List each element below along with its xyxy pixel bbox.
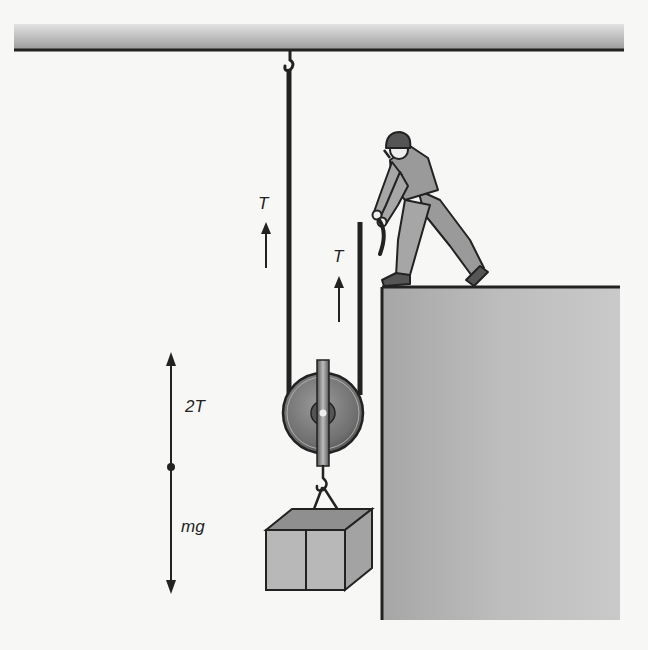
free-body-diagram bbox=[166, 352, 176, 594]
worker-figure bbox=[373, 132, 489, 286]
crate bbox=[266, 509, 372, 590]
tension-arrow-left bbox=[261, 222, 271, 268]
ceiling-hook-icon bbox=[285, 51, 293, 71]
tension-label-right: T bbox=[333, 248, 343, 265]
force-label-2t: 2T bbox=[185, 398, 205, 415]
force-label-mg: mg bbox=[181, 518, 205, 535]
tension-label-left: T bbox=[258, 195, 268, 212]
ceiling-beam bbox=[14, 24, 624, 50]
wall-ledge bbox=[382, 287, 620, 620]
movable-pulley bbox=[283, 360, 363, 466]
tension-arrow-right bbox=[334, 276, 344, 322]
rope bbox=[289, 70, 360, 395]
pulley-diagram bbox=[0, 0, 648, 650]
